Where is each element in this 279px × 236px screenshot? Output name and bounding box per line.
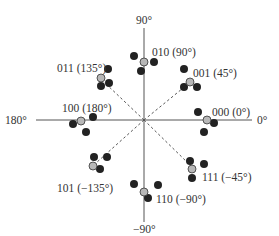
received-point — [194, 108, 202, 116]
reference-point — [140, 58, 148, 66]
symbol-cluster-001: 001 (45°) — [180, 65, 237, 91]
symbol-cluster-100: 100 (180°) — [62, 102, 112, 136]
reference-point — [203, 116, 211, 124]
symbol-cluster-111: 111 (−45°) — [186, 157, 252, 184]
received-point — [180, 65, 188, 73]
diagonal-minus-45 — [144, 120, 190, 165]
axis-label-left: 180° — [5, 114, 27, 126]
reference-point — [89, 162, 97, 170]
received-point — [105, 79, 113, 87]
axis-label-bottom: −90° — [133, 223, 156, 235]
symbol-cluster-000: 000 (0°) — [194, 106, 250, 136]
symbol-label: 011 (135°) — [57, 62, 106, 75]
reference-point — [97, 74, 105, 82]
symbol-cluster-011: 011 (135°) — [57, 62, 113, 90]
reference-point — [140, 188, 148, 196]
received-point — [200, 160, 208, 168]
symbol-label: 101 (−135°) — [57, 182, 113, 195]
received-point — [200, 128, 208, 136]
received-point — [150, 58, 158, 66]
symbol-label: 100 (180°) — [62, 102, 112, 115]
received-point — [188, 174, 196, 182]
received-point — [69, 120, 77, 128]
received-point — [193, 83, 201, 91]
symbol-label: 001 (45°) — [193, 67, 237, 80]
received-point — [89, 113, 97, 121]
received-point — [137, 67, 145, 75]
symbol-label: 010 (90°) — [152, 46, 196, 59]
received-point — [186, 157, 194, 165]
constellation-diagram: 90° −90° 180° 0° 000 (0°) 001 (45°) 010 … — [0, 0, 279, 236]
symbol-cluster-101: 101 (−135°) — [57, 153, 113, 195]
diagonal-135 — [104, 82, 144, 120]
axis-label-top: 90° — [136, 14, 153, 26]
symbol-label: 111 (−45°) — [202, 171, 252, 184]
symbol-cluster-110: 110 (−90°) — [130, 180, 206, 206]
symbol-label: 000 (0°) — [212, 106, 250, 119]
received-point — [90, 153, 98, 161]
axis-label-right: 0° — [257, 114, 268, 126]
received-point — [154, 181, 162, 189]
received-point — [103, 153, 111, 161]
received-point — [97, 82, 105, 90]
symbol-label: 110 (−90°) — [156, 193, 206, 206]
received-point — [130, 180, 138, 188]
received-point — [130, 52, 138, 60]
reference-point — [188, 165, 196, 173]
received-point — [82, 128, 90, 136]
reference-point — [77, 117, 85, 125]
reference-point — [186, 78, 194, 86]
